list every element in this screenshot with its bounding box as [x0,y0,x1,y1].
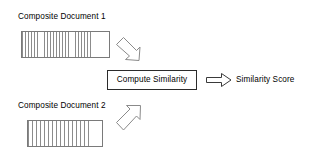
document-1-title: Composite Document 1 [18,12,106,22]
document-1-bar [21,31,110,58]
compute-similarity-label: Compute Similarity [117,75,188,85]
document-1-stripes [22,32,93,57]
arrow-right-icon [206,73,232,87]
similarity-score-label: Similarity Score [236,75,294,85]
document-2-stripes [28,121,89,146]
arrow-down-right-icon [114,36,142,62]
document-2-title: Composite Document 2 [18,101,106,111]
document-2-bar [27,120,103,147]
compute-similarity-box[interactable]: Compute Similarity [107,70,197,90]
arrow-up-right-icon [115,104,143,134]
diagram-canvas: Composite Document 1 Compute Similarity … [0,0,314,158]
